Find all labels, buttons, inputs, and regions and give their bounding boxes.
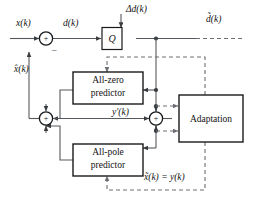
- quantizer-block[interactable]: Q: [102, 28, 122, 50]
- input-adder[interactable]: +: [39, 32, 52, 45]
- wire-xhat-feedback: [29, 52, 39, 119]
- left-adder[interactable]: +: [39, 112, 52, 125]
- right-adder[interactable]: +: [149, 112, 162, 125]
- signal-label-quantized-out: d̃(k): [206, 12, 221, 25]
- adaptation-block[interactable]: Adaptation: [179, 95, 243, 142]
- adaptation-label: Adaptation: [190, 114, 232, 124]
- wire-q-output: [136, 36, 243, 40]
- signal-label-predicted: x̂(k): [13, 64, 29, 75]
- signal-label-input: x(k): [15, 18, 31, 29]
- input-adder-plus: +: [44, 34, 49, 43]
- quantizer-label: Q: [108, 33, 116, 44]
- all-pole-predictor-block[interactable]: All-pole predictor: [73, 144, 143, 176]
- wire-trunk-to-all-pole: [143, 140, 156, 148]
- wire-trunk-to-all-zero: [143, 88, 158, 92]
- all-zero-predictor-block[interactable]: All-zero predictor: [73, 72, 143, 104]
- all-zero-predictor-label-line1: All-zero: [92, 75, 124, 85]
- schematic-canvas: Q All-zero predictor All-pole predictor …: [0, 0, 253, 210]
- wire-all-zero-out: [53, 90, 73, 119]
- signal-label-difference: d(k): [63, 18, 78, 29]
- left-adder-plus: +: [44, 114, 49, 123]
- block-diagram-figure: Q All-zero predictor All-pole predictor …: [0, 0, 253, 210]
- all-pole-predictor-label-line2: predictor: [91, 160, 126, 170]
- signal-label-reconstructed: x̃(k) = y(k): [143, 172, 185, 183]
- signal-label-quant-noise: Δd(k): [125, 4, 147, 15]
- signal-label-y-prime: y′(k): [111, 107, 129, 118]
- wire-all-pole-out: [46, 119, 73, 161]
- junction-dot-all-zero-feed: [154, 88, 158, 92]
- all-zero-predictor-label-line2: predictor: [91, 88, 126, 98]
- input-adder-minus-sign: –: [51, 44, 57, 54]
- all-pole-predictor-label-line1: All-pole: [92, 147, 124, 157]
- right-adder-plus: +: [154, 114, 159, 123]
